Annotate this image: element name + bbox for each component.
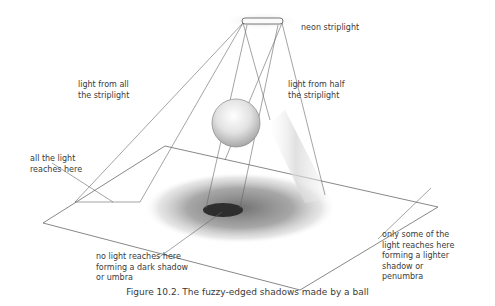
neon-striplight	[242, 18, 283, 24]
label-penumbra: only some of the light reaches here form…	[382, 230, 454, 283]
label-light-from-half: light from half the striplight	[288, 80, 344, 101]
label-all-light-reaches: all the light reaches here	[30, 154, 82, 175]
label-light-from-all: light from all the striplight	[78, 80, 129, 101]
label-neon-striplight: neon striplight	[301, 23, 359, 34]
figure-caption: Figure 10.2. The fuzzy-edged shadows mad…	[0, 287, 495, 297]
ball	[212, 99, 260, 147]
umbra-shadow	[203, 203, 243, 217]
label-umbra: no light reaches here forming a dark sha…	[96, 252, 188, 284]
